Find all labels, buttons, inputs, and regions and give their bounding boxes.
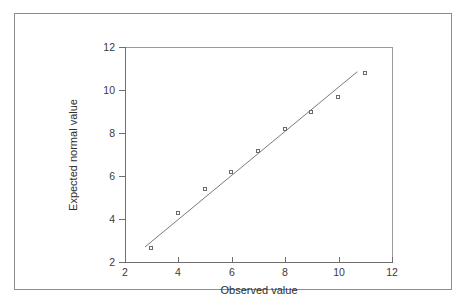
data-point-marker: [336, 95, 340, 99]
data-point-marker: [229, 170, 233, 174]
data-point-marker: [309, 110, 313, 114]
x-axis-line: [125, 262, 393, 263]
data-point-marker: [256, 149, 260, 153]
data-point-marker: [363, 71, 367, 75]
x-axis-ticklabel-6: 6: [218, 266, 246, 278]
plot-area: [125, 47, 392, 262]
x-axis-ticklabel-2: 2: [111, 266, 139, 278]
y-axis-ticklabel-8: 8: [87, 128, 115, 138]
plot-frame-right-edge: [392, 47, 393, 263]
chart-screenshot: 12 10 8 6 4 2 2 4 6 8 10 12 Observed val…: [0, 0, 464, 307]
data-point-marker: [283, 127, 287, 131]
y-axis-ticklabel-6: 6: [87, 171, 115, 181]
x-axis-title: Observed value: [125, 284, 393, 296]
x-axis-ticklabel-4: 4: [164, 266, 192, 278]
x-axis-ticklabel-8: 8: [271, 266, 299, 278]
y-axis-ticklabel-10: 10: [87, 85, 115, 95]
y-axis-ticklabel-12: 12: [87, 42, 115, 52]
data-point-marker: [176, 211, 180, 215]
y-axis-ticklabel-4: 4: [87, 214, 115, 224]
x-axis-ticklabel-12: 12: [378, 266, 406, 278]
y-axis-title: Expected normal value: [67, 75, 79, 235]
x-axis-ticklabel-10: 10: [325, 266, 353, 278]
data-point-marker: [203, 187, 207, 191]
x-axis-tick-12: [392, 257, 393, 263]
figure-outer-frame: 12 10 8 6 4 2 2 4 6 8 10 12 Observed val…: [14, 13, 452, 290]
data-point-marker: [149, 246, 153, 250]
